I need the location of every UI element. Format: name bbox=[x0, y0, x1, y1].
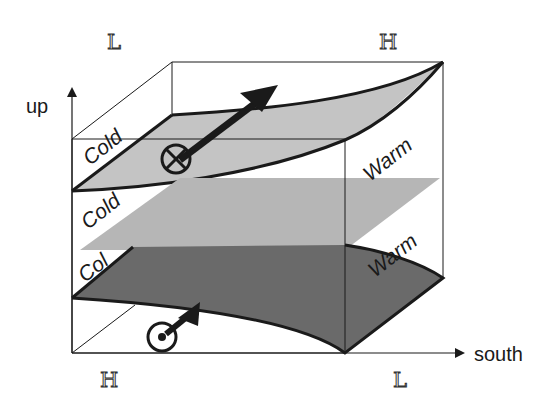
upper-warm-label: Warm bbox=[358, 133, 416, 185]
pressure-label-top-left: L bbox=[107, 30, 121, 54]
pressure-label-top-right: H bbox=[379, 30, 397, 54]
up-axis-label: up bbox=[26, 95, 48, 117]
pressure-label-bottom-left: H bbox=[100, 368, 118, 392]
south-axis-label: south bbox=[474, 343, 523, 365]
pressure-label-bottom-right: L bbox=[393, 368, 407, 392]
middle-plane bbox=[80, 178, 440, 250]
frontal-surfaces-diagram: up south Cold Warm Cold Col Warm L H H L bbox=[0, 0, 560, 407]
out-of-page-symbol bbox=[148, 323, 176, 351]
